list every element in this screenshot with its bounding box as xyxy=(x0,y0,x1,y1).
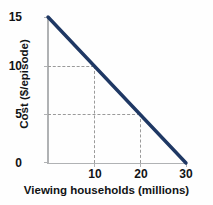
plot-area xyxy=(48,17,186,163)
y-axis-title: Cost ($/episode) xyxy=(18,14,30,154)
x-tick-label-20: 20 xyxy=(134,167,147,181)
chart-figure: 15 10 5 0 10 20 30 Viewing households (m… xyxy=(0,0,213,205)
cost-curve-line xyxy=(46,15,188,165)
x-tick-label-10: 10 xyxy=(88,167,101,181)
x-axis-title: Viewing households (millions) xyxy=(0,184,213,196)
y-tick-label-0: 0 xyxy=(0,156,22,170)
x-tick-label-30: 30 xyxy=(179,167,192,181)
series-cost-per-episode xyxy=(48,17,186,163)
